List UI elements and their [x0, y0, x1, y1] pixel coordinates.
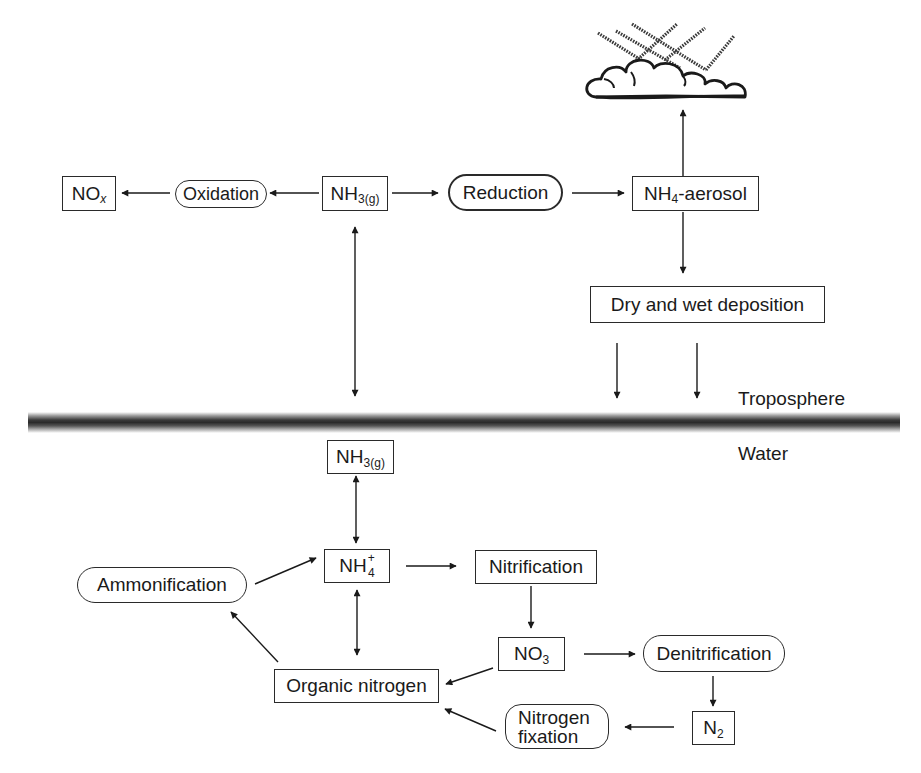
node-nh4-ion: NH + 4 [324, 549, 390, 583]
node-nitrogen-fixation: Nitrogen fixation [505, 704, 609, 749]
arrow-no3-to-organic [446, 668, 493, 684]
troposphere-label: Troposphere [738, 388, 845, 410]
node-reduction: Reduction [448, 174, 563, 211]
node-ammonification: Ammonification [77, 567, 247, 603]
node-nh4-aerosol: NH4-aerosol [632, 176, 759, 211]
nitrogen-cycle-diagram: Troposphere Water NOx Oxidation NH3(g) R… [0, 0, 921, 773]
node-nh3-air: NH3(g) [322, 176, 388, 211]
water-label: Water [738, 443, 788, 465]
node-nitrification: Nitrification [475, 550, 597, 584]
node-nox: NOx [62, 176, 116, 211]
arrow-organic-to-ammonification [231, 612, 278, 662]
node-n2: N2 [692, 711, 735, 745]
cloud-rain-icon [587, 24, 746, 98]
arrow-ammonification-to-nh4 [255, 558, 316, 584]
node-nh3-water: NH3(g) [327, 440, 394, 474]
node-denitrification: Denitrification [643, 635, 785, 672]
node-oxidation: Oxidation [175, 180, 267, 208]
arrow-fixation-to-organic [445, 709, 496, 731]
surface-boundary [28, 412, 900, 433]
node-deposition: Dry and wet deposition [590, 286, 825, 323]
node-no3: NO3 [498, 637, 565, 671]
node-organic-nitrogen: Organic nitrogen [274, 669, 439, 703]
